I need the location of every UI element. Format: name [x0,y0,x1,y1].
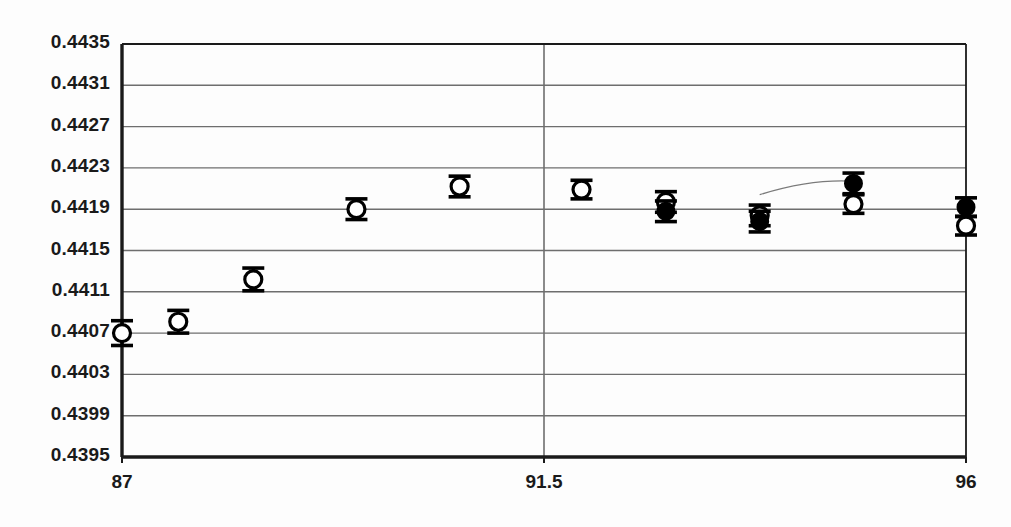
data-point [842,173,864,194]
marker-open-circle [348,201,365,218]
data-point [111,321,133,346]
marker-filled-circle [751,213,768,230]
data-point [955,198,977,217]
marker-open-circle [245,271,262,288]
data-point [345,199,367,220]
data-point [449,176,471,197]
marker-open-circle [573,181,590,198]
marker-open-circle [114,325,131,342]
data-point [242,268,264,291]
plot-area [0,0,1011,527]
leader-curve-icon [760,181,854,195]
data-point [955,216,977,235]
annotations [760,181,854,195]
marker-filled-circle [958,199,975,216]
data-point [571,180,593,199]
marker-open-circle [170,313,187,330]
marker-open-circle [958,217,975,234]
marker-open-circle [845,196,862,213]
marker-filled-circle [845,175,862,192]
chart-container: 0.44350.44310.44270.44230.44190.44150.44… [0,0,1011,527]
marker-open-circle [451,178,468,195]
data-point [842,195,864,214]
data-point [167,310,189,333]
marker-filled-circle [657,203,674,220]
